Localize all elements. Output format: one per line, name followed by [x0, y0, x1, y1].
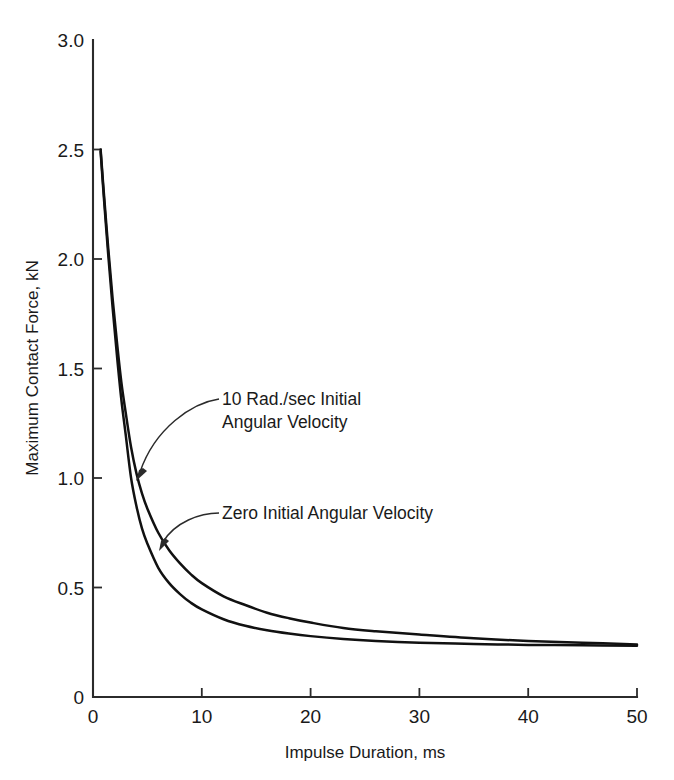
- x-axis-ticks: [93, 688, 637, 697]
- x-tick-label-30: 30: [409, 706, 430, 727]
- annotation-upper: 10 Rad./sec Initial Angular Velocity: [136, 389, 361, 481]
- axis-lines: [93, 40, 637, 697]
- chart-page: 3.0 2.5 2.0 1.5 1.0 0.5 0 0 10 20 30 40 …: [0, 0, 674, 780]
- y-tick-label-0_5: 0.5: [58, 578, 84, 599]
- y-tick-labels: 3.0 2.5 2.0 1.5 1.0 0.5 0: [58, 30, 84, 708]
- x-tick-label-40: 40: [518, 706, 539, 727]
- y-tick-label-1_5: 1.5: [58, 359, 84, 380]
- x-tick-label-50: 50: [626, 706, 647, 727]
- annotation-lower-leader: [163, 513, 219, 542]
- x-axis-title: Impulse Duration, ms: [285, 743, 446, 762]
- annotation-upper-line2: Angular Velocity: [222, 412, 348, 432]
- annotation-upper-line1: 10 Rad./sec Initial: [222, 389, 361, 409]
- y-tick-label-3_0: 3.0: [58, 30, 84, 51]
- x-tick-labels: 0 10 20 30 40 50: [88, 706, 648, 727]
- y-tick-label-2_0: 2.0: [58, 249, 84, 270]
- y-axis-title: Maximum Contact Force, kN: [23, 260, 42, 475]
- annotation-upper-leader: [140, 399, 219, 472]
- y-tick-label-2_5: 2.5: [58, 140, 84, 161]
- data-curves: [101, 150, 637, 646]
- y-axis-ticks: [93, 150, 102, 698]
- annotation-lower-line1: Zero Initial Angular Velocity: [222, 503, 433, 523]
- y-tick-label-0: 0: [73, 687, 84, 708]
- x-tick-label-20: 20: [300, 706, 321, 727]
- curve-zero-angular-velocity: [101, 152, 637, 646]
- y-tick-label-1_0: 1.0: [58, 468, 84, 489]
- x-tick-label-0: 0: [88, 706, 99, 727]
- x-tick-label-10: 10: [191, 706, 212, 727]
- curve-10-rad-per-sec: [101, 150, 637, 645]
- maximum-contact-force-chart: 3.0 2.5 2.0 1.5 1.0 0.5 0 0 10 20 30 40 …: [0, 0, 674, 780]
- axis-group: [93, 40, 637, 697]
- annotation-lower: Zero Initial Angular Velocity: [159, 503, 433, 551]
